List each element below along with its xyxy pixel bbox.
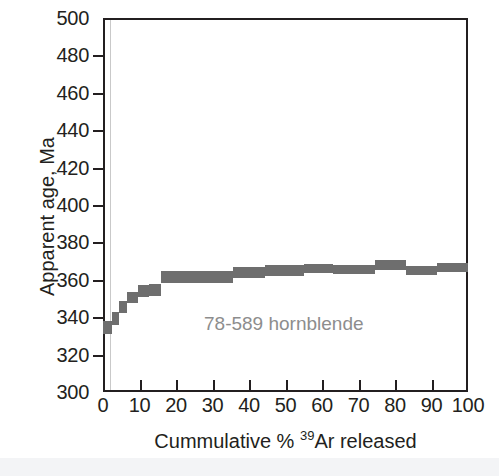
age-spectrum-figure: 300320340360380400420440460480500 010203… — [0, 0, 499, 476]
x-tick-label-80: 80 — [384, 394, 406, 417]
y-tick-340 — [93, 317, 105, 319]
step-box — [127, 292, 138, 303]
x-tick-30 — [213, 380, 215, 392]
x-tick-label-60: 60 — [311, 394, 333, 417]
y-tick-label-300: 300 — [29, 381, 89, 404]
step-box — [233, 267, 266, 278]
x-tick-label-40: 40 — [238, 394, 260, 417]
x-tick-80 — [395, 380, 397, 392]
step-box — [375, 260, 406, 269]
x-tick-label-100: 100 — [452, 394, 484, 417]
step-box — [103, 321, 112, 334]
y-tick-460 — [93, 93, 105, 95]
step-box — [333, 265, 375, 274]
step-box — [406, 266, 437, 275]
x-axis-title-superscript: 39 — [300, 428, 314, 443]
sample-annotation-label: 78-589 hornblende — [204, 313, 364, 335]
y-tick-380 — [93, 242, 105, 244]
y-axis-title: Apparent age, Ma — [36, 67, 59, 367]
step-box — [161, 271, 232, 282]
step-box — [149, 284, 162, 295]
page-bottom-band — [0, 458, 499, 476]
y-tick-360 — [93, 280, 105, 282]
x-axis-title: Cummulative % 39Ar released — [103, 428, 468, 453]
x-tick-label-0: 0 — [98, 394, 109, 417]
y-tick-400 — [93, 205, 105, 207]
x-tick-label-30: 30 — [202, 394, 224, 417]
x-tick-label-50: 50 — [275, 394, 297, 417]
x-tick-label-90: 90 — [421, 394, 443, 417]
y-tick-480 — [93, 55, 105, 57]
x-axis-title-pre: Cummulative % — [154, 430, 300, 452]
y-tick-320 — [93, 355, 105, 357]
step-box — [265, 265, 303, 276]
x-tick-50 — [286, 380, 288, 392]
y-tick-440 — [93, 130, 105, 132]
step-box — [304, 264, 333, 273]
x-tick-label-10: 10 — [129, 394, 151, 417]
x-axis-title-post: Ar released — [314, 430, 416, 452]
x-tick-20 — [176, 380, 178, 392]
x-tick-90 — [432, 380, 434, 392]
x-tick-label-20: 20 — [165, 394, 187, 417]
inner-axis-rule — [110, 20, 111, 390]
step-box — [112, 312, 119, 325]
step-box — [138, 285, 149, 296]
x-tick-label-70: 70 — [348, 394, 370, 417]
step-box — [119, 301, 126, 312]
y-tick-label-500: 500 — [29, 7, 89, 30]
x-tick-70 — [359, 380, 361, 392]
x-tick-40 — [249, 380, 251, 392]
y-tick-420 — [93, 168, 105, 170]
y-tick-label-480: 480 — [29, 44, 89, 67]
step-box — [437, 263, 468, 272]
plot-frame — [103, 18, 468, 392]
x-tick-10 — [140, 380, 142, 392]
x-tick-60 — [322, 380, 324, 392]
